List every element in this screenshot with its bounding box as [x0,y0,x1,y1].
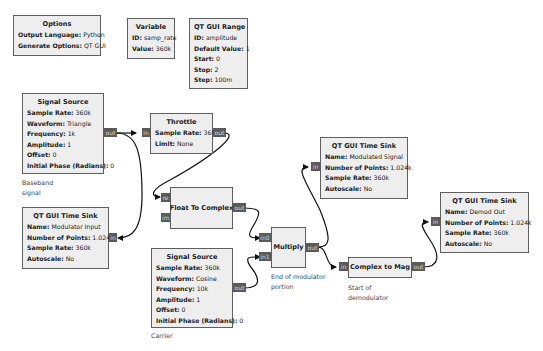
param-output-language: Output Language: Python [18,30,96,41]
signal-source-baseband-out-port[interactable]: out [104,128,117,137]
time-sink-demod-out-in-port[interactable]: in [431,217,440,226]
param-sample-rate: Sample Rate: 360k [27,243,104,254]
param-sample-rate: Sample Rate: 360k [27,108,99,119]
block-title: Multiply [273,242,303,253]
comment-end-of-modulator: End of modulator portion [271,272,326,292]
param-offset: Offset: 0 [156,305,228,316]
float-to-complex-im-port[interactable]: im [161,213,170,222]
param-limit: Limit: None [155,139,208,150]
param-name: Name: Demod Out [445,207,524,218]
qt-gui-range-block[interactable]: QT GUI Range ID: amplitude Default Value… [189,18,248,89]
wire-float-to-complex-to-multiply [244,208,260,238]
complex-to-mag-in-port[interactable]: in [339,262,348,271]
param-value: Value: 360k [132,44,170,55]
block-title: QT GUI Time Sink [27,211,104,222]
float-to-complex-re-port[interactable]: re [161,193,170,202]
param-number-of-points: Number of Points: 1.024k [325,163,403,174]
complex-to-mag-out-port[interactable]: out [412,262,425,271]
float-to-complex-block[interactable]: Float To Complex [170,187,233,229]
param-number-of-points: Number of Points: 1.024k [27,233,104,244]
param-id: ID: amplitude [194,33,243,44]
variable-block[interactable]: Variable ID: samp_rate Value: 360k [127,18,175,59]
block-title: Throttle [155,117,208,128]
param-sample-rate: Sample Rate: 360k [325,173,403,184]
block-title: Signal Source [156,252,228,263]
param-waveform: Waveform: Triangle [27,119,99,130]
param-sample-rate: Sample Rate: 360k [156,263,228,274]
time-sink-modulator-input-in-port[interactable]: in [109,233,117,242]
throttle-in-port[interactable]: in [142,128,150,137]
wire-multiply-to-complex-to-mag [318,247,336,267]
block-title: Variable [132,22,170,33]
param-name: Name: Modulator Input [27,222,104,233]
block-title: QT GUI Time Sink [445,196,524,207]
param-frequency: Frequency: 1k [27,129,99,140]
param-generate-options: Generate Options: QT GUI [18,41,96,52]
wire-complex-to-mag-to-demod-sink [422,222,437,267]
comment-carrier: Carrier [151,331,173,341]
param-sample-rate: Sample Rate: 360k [445,228,524,239]
time-sink-demod-out-block[interactable]: QT GUI Time Sink Name: Demod Out Number … [440,192,529,253]
param-frequency: Frequency: 10k [156,284,228,295]
signal-source-carrier-out-port[interactable]: out [233,283,246,292]
param-start: Start: 0 [194,54,243,65]
wire-source-to-mod-input-sink [116,133,142,238]
options-block[interactable]: Options Output Language: Python Generate… [13,15,101,56]
multiply-in0-port[interactable]: in0 [259,233,271,242]
param-amplitude: Amplitude: 1 [156,295,228,306]
time-sink-modulated-in-port[interactable]: in [311,162,320,171]
param-offset: Offset: 0 [27,150,99,161]
throttle-out-port[interactable]: out [213,128,226,137]
param-autoscale: Autoscale: No [445,239,524,250]
block-title: QT GUI Range [194,22,243,33]
param-step: Step: 100m [194,75,243,86]
time-sink-modulator-input-block[interactable]: QT GUI Time Sink Name: Modulator Input N… [22,207,109,269]
time-sink-modulated-signal-block[interactable]: QT GUI Time Sink Name: Modulated Signal … [320,137,408,199]
multiply-out-port[interactable]: out [306,243,319,252]
comment-baseband-signal: Baseband signal [22,178,53,198]
float-to-complex-out-port[interactable]: out [233,203,246,212]
complex-to-mag-block[interactable]: Complex to Mag [348,257,412,278]
block-title: QT GUI Time Sink [325,141,403,152]
param-initial-phase: Initial Phase (Radians): 0 [27,161,99,172]
throttle-block[interactable]: Throttle Sample Rate: 360k Limit: None [150,113,213,154]
wire-carrier-to-multiply [244,257,260,288]
signal-source-carrier-block[interactable]: Signal Source Sample Rate: 360k Waveform… [151,248,233,328]
param-initial-phase: Initial Phase (Radians): 0 [156,316,228,327]
comment-start-of-demodulator: Start of demodulator [348,283,388,303]
param-name: Name: Modulated Signal [325,152,403,163]
block-title: Float To Complex [170,203,234,214]
block-title: Complex to Mag [350,262,410,273]
param-number-of-points: Number of Points: 1.024k [445,218,524,229]
block-title: Options [18,19,96,30]
multiply-in1-port[interactable]: in1 [259,252,271,261]
param-waveform: Waveform: Cosine [156,274,228,285]
param-autoscale: Autoscale: No [325,184,403,195]
param-sample-rate: Sample Rate: 360k [155,128,208,139]
param-default-value: Default Value: 1 [194,44,243,55]
param-stop: Stop: 2 [194,65,243,76]
param-amplitude: Amplitude: 1 [27,140,99,151]
block-title: Signal Source [27,97,99,108]
param-autoscale: Autoscale: No [27,254,104,265]
param-id: ID: samp_rate [132,33,170,44]
signal-source-baseband-block[interactable]: Signal Source Sample Rate: 360k Waveform… [22,93,104,174]
multiply-block[interactable]: Multiply [271,227,306,268]
